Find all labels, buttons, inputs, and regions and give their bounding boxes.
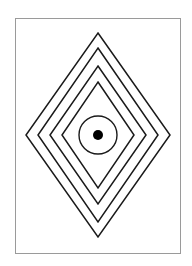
center-dot [93, 130, 103, 140]
concentric-diamond-figure [0, 0, 192, 266]
